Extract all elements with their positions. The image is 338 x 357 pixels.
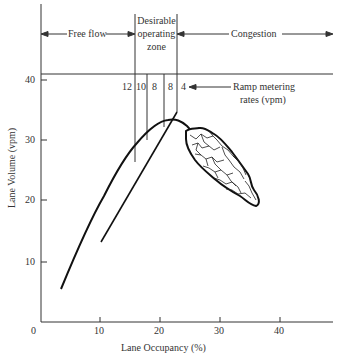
x-axis-title: Lane Occupancy (%) xyxy=(121,343,206,353)
rate-value-10: 10 xyxy=(136,82,146,92)
ramp-metering-label-2: rates (vpm) xyxy=(240,95,286,105)
rate-value-4: 4 xyxy=(181,82,186,92)
free-flow-label: Free flow xyxy=(68,29,107,39)
volume-occupancy-curve xyxy=(61,120,195,289)
y-ticks xyxy=(41,80,47,262)
x-tick-0: 0 xyxy=(31,326,36,336)
desirable-zone-label-2: operating xyxy=(136,29,177,39)
rate-value-12: 12 xyxy=(122,82,132,92)
desirable-zone-label-3: zone xyxy=(136,42,177,52)
y-axis-title: Lane Volume (vpm) xyxy=(7,118,17,218)
y-tick-20: 20 xyxy=(25,195,35,205)
rate-value-8a: 8 xyxy=(152,82,157,92)
ramp-metering-label-1: Ramp metering xyxy=(233,82,295,92)
congested-data-cloud xyxy=(186,128,259,206)
x-ticks xyxy=(100,317,280,322)
metering-diagonal xyxy=(101,112,177,242)
y-tick-10: 10 xyxy=(25,257,35,267)
y-tick-30: 30 xyxy=(25,135,35,145)
volume-occupancy-chart: Free flow Desirable operating zone Conge… xyxy=(0,0,338,357)
x-tick-10: 10 xyxy=(94,326,104,336)
desirable-zone-label-1: Desirable xyxy=(136,16,177,26)
rate-value-8b: 8 xyxy=(168,82,173,92)
congestion-label: Congestion xyxy=(231,29,277,39)
y-tick-40: 40 xyxy=(25,75,35,85)
x-tick-30: 30 xyxy=(214,326,224,336)
x-tick-40: 40 xyxy=(274,326,284,336)
x-tick-20: 20 xyxy=(154,326,164,336)
